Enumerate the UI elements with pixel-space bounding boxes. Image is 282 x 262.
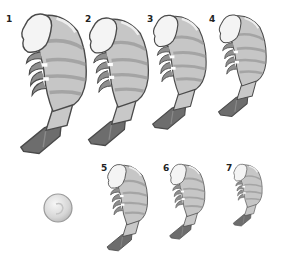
shrimp-label-1: 1 — [6, 15, 12, 24]
shrimp-illustration-3 — [150, 12, 208, 132]
shrimp-illustration-2 — [86, 14, 150, 149]
coin-scale-reference — [42, 192, 74, 224]
shrimp-illustration-1 — [18, 10, 88, 157]
shrimp-illustration-6 — [168, 162, 206, 241]
shrimp-illustration-4 — [215, 12, 269, 119]
shrimp-illustration-5 — [105, 162, 149, 253]
shrimp-illustration-7 — [232, 162, 263, 228]
